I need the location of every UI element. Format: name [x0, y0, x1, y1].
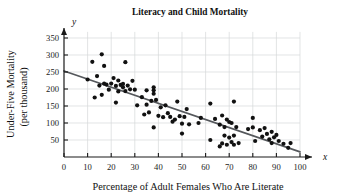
data-point: [116, 89, 120, 93]
data-point: [208, 138, 212, 142]
y-axis-title-line1: Under-Five Mortality: [5, 49, 16, 138]
x-tick-label: 10: [83, 162, 92, 172]
data-point: [161, 115, 165, 119]
data-point: [145, 88, 149, 92]
data-point: [114, 101, 118, 105]
chart-figure: 0102030405060708090100 50100150200250300…: [0, 0, 339, 196]
data-point: [166, 111, 170, 115]
data-point: [100, 52, 104, 56]
data-point: [180, 122, 184, 126]
data-point: [288, 141, 292, 145]
x-tick-label: 60: [201, 162, 210, 172]
x-tick-label: 30: [131, 162, 140, 172]
data-point: [126, 84, 130, 88]
data-point: [237, 141, 241, 145]
x-tick-label: 70: [225, 162, 234, 172]
data-point: [220, 113, 224, 117]
data-point: [152, 125, 156, 129]
data-point: [123, 60, 127, 64]
x-tick-label: 20: [107, 162, 116, 172]
data-point: [149, 99, 153, 103]
y-axis-arrow-icon: [61, 28, 67, 35]
data-point: [107, 88, 111, 92]
data-point: [222, 133, 226, 137]
data-point: [187, 122, 191, 126]
data-point: [196, 121, 200, 125]
data-point: [86, 77, 90, 81]
data-point: [222, 125, 226, 129]
data-point: [175, 99, 179, 103]
data-point: [109, 81, 113, 85]
data-point: [260, 135, 264, 139]
data-point: [97, 84, 101, 88]
data-point: [225, 143, 229, 147]
data-point: [258, 128, 262, 132]
data-point: [121, 82, 125, 86]
data-point: [265, 132, 269, 136]
data-point: [128, 87, 132, 91]
gridlines: [64, 32, 300, 157]
data-point: [251, 125, 255, 129]
data-point: [95, 74, 99, 78]
x-tick-label: 90: [272, 162, 281, 172]
data-point: [185, 107, 189, 111]
x-tick-label: 50: [178, 162, 187, 172]
data-point: [154, 98, 158, 102]
x-tick-label: 40: [154, 162, 163, 172]
data-point: [90, 60, 94, 64]
data-point: [220, 141, 224, 145]
y-tick-label: 150: [46, 101, 59, 111]
data-point: [130, 79, 134, 83]
data-point: [152, 92, 156, 96]
data-point: [168, 115, 172, 119]
data-point: [182, 115, 186, 119]
x-tick-label: 100: [294, 162, 307, 172]
y-axis-variable-name: y: [71, 17, 77, 27]
data-point: [133, 88, 137, 92]
data-point: [218, 123, 222, 127]
data-point: [135, 103, 139, 107]
x-tick-label: 0: [62, 162, 66, 172]
data-point: [208, 102, 212, 106]
data-points: [86, 52, 293, 150]
data-point: [178, 114, 182, 118]
data-point: [263, 126, 267, 130]
x-axis-arrow-icon: [305, 154, 312, 160]
data-point: [163, 103, 167, 107]
data-point: [156, 114, 160, 118]
y-axis-ticks: 50100150200250300350: [46, 33, 68, 145]
data-point: [147, 110, 151, 114]
y-tick-label: 250: [46, 67, 59, 77]
literacy-child-mortality-scatter-plot: 0102030405060708090100 50100150200250300…: [0, 0, 339, 196]
data-point: [270, 141, 274, 145]
x-axis-ticks: 0102030405060708090100: [62, 153, 307, 172]
data-point: [251, 116, 255, 120]
chart-title: Literacy and Child Mortality: [132, 7, 248, 17]
data-point: [286, 146, 290, 150]
data-point: [114, 84, 118, 88]
y-tick-label: 350: [46, 33, 59, 43]
data-point: [227, 136, 231, 140]
data-point: [213, 117, 217, 121]
data-point: [111, 76, 115, 80]
data-point: [100, 93, 104, 97]
y-tick-label: 300: [46, 50, 59, 60]
data-point: [142, 112, 146, 116]
data-point: [246, 127, 250, 131]
x-tick-label: 80: [249, 162, 258, 172]
data-point: [145, 103, 149, 107]
data-point: [232, 99, 236, 103]
x-axis-variable-name: x: [322, 152, 328, 162]
x-axis-title: Percentage of Adult Females Who Are Lite…: [92, 181, 284, 192]
data-point: [199, 116, 203, 120]
data-point: [232, 133, 236, 137]
data-point: [277, 139, 281, 143]
data-point: [93, 95, 97, 99]
data-point: [159, 105, 163, 109]
y-tick-label: 100: [46, 118, 59, 128]
data-point: [140, 95, 144, 99]
data-point: [234, 125, 238, 129]
data-point: [267, 137, 271, 141]
data-point: [180, 131, 184, 135]
data-point: [116, 78, 120, 82]
